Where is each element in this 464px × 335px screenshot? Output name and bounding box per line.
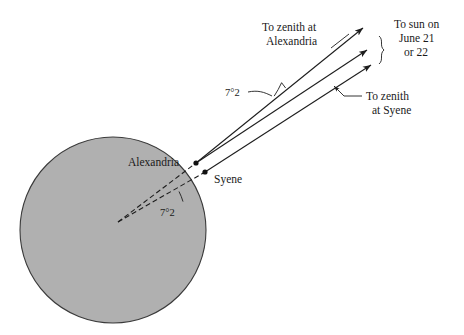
label-to-sun-line1: To sun on xyxy=(394,18,439,30)
angle-label-center: 7°2 xyxy=(160,207,175,218)
syene-point xyxy=(202,169,207,174)
label-alexandria: Alexandria xyxy=(128,156,179,168)
ray-zenith-at-alexandria xyxy=(196,28,363,163)
label-to-zenith-syene-line1: To zenith xyxy=(366,90,409,102)
sun-rays-brace xyxy=(379,36,384,64)
label-to-sun-line3: or 22 xyxy=(404,46,428,58)
ray-sun-to-alexandria xyxy=(196,50,367,163)
diagram-canvas: 7°2 7°2 To zenith at Alexandria To sun o… xyxy=(0,0,464,335)
alexandria-point xyxy=(193,160,198,165)
label-syene: Syene xyxy=(214,173,242,186)
label-to-zenith-alexandria-line1: To zenith at xyxy=(262,21,317,33)
label-to-zenith-syene-line2: at Syene xyxy=(372,104,411,117)
ray-sun-to-syene xyxy=(205,65,371,172)
label-to-zenith-alexandria-line2: Alexandria xyxy=(266,35,317,47)
angle-label-alexandria: 7°2 xyxy=(225,87,240,98)
eratosthenes-diagram: 7°2 7°2 To zenith at Alexandria To sun o… xyxy=(0,0,464,335)
label-to-sun-line2: June 21 xyxy=(399,32,435,44)
leader-to-zenith-syene xyxy=(334,86,362,96)
alexandria-angle-tick xyxy=(282,83,286,88)
angle-label-leader xyxy=(248,91,272,96)
